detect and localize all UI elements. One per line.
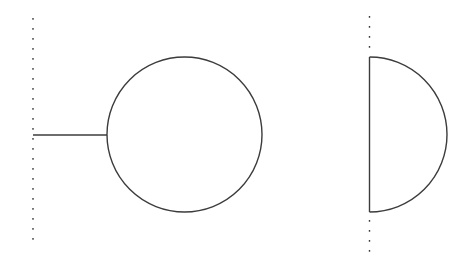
diagram-canvas <box>0 0 468 267</box>
boundary-half-loop-diagram <box>370 16 447 253</box>
half-loop-arc <box>370 57 447 212</box>
feynman-diagram-svg <box>0 0 468 267</box>
tadpole-loop-circle <box>107 57 262 212</box>
tadpole-diagram <box>33 18 262 248</box>
